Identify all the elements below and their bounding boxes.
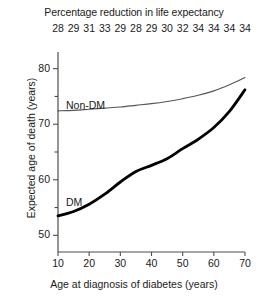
plot-canvas — [0, 0, 268, 299]
tick-marks — [53, 69, 245, 256]
series-label-non-dm: Non-DM — [66, 99, 105, 111]
chart-figure: Percentage reduction in life expectancy … — [0, 0, 268, 299]
series-label-dm: DM — [66, 196, 82, 208]
axis-lines — [58, 52, 245, 252]
